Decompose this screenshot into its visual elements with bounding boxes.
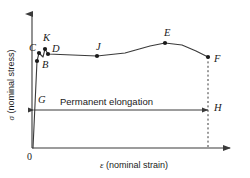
x-axis-title-text: (nominal strain) [104, 160, 169, 170]
y-axis-title-text: (nominal stress) [6, 50, 16, 117]
point-label-b: B [42, 60, 48, 71]
point-label-g: G [38, 95, 46, 106]
curve-point-e [163, 41, 167, 45]
curve-point-j [95, 54, 99, 58]
point-label-e: E [164, 28, 170, 39]
curve-point-markers [35, 41, 210, 63]
curve-point-c [37, 51, 41, 55]
diagram-canvas [0, 0, 250, 178]
point-label-f: F [214, 54, 220, 65]
curve-point-d [46, 52, 50, 56]
sigma-symbol: σ [6, 116, 16, 120]
x-axis-title: ε (nominal strain) [100, 160, 168, 170]
permanent-elongation-label: Permanent elongation [60, 96, 153, 107]
point-label-k: K [43, 33, 50, 44]
curve-point-k [43, 47, 47, 51]
stress-strain-diagram: BCKDJEFGH Permanent elongation 0 σ (nomi… [0, 0, 250, 178]
y-axis-title: σ (nominal stress) [6, 30, 16, 140]
point-label-h: H [214, 103, 222, 114]
curve-point-f [206, 55, 210, 59]
point-label-j: J [96, 42, 101, 53]
point-label-d: D [52, 44, 60, 55]
origin-label: 0 [27, 152, 32, 162]
point-label-c: C [29, 43, 36, 54]
curve-point-b [35, 59, 39, 63]
